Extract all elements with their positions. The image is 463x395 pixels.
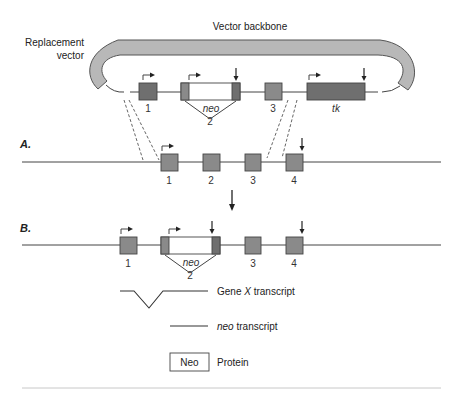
vector-right-join [382,86,400,92]
gene-targeting-diagram: Vector backbone Replacement vector 1 neo… [0,0,463,395]
promoter-arrow-icon [143,75,151,80]
neo-protein-box-label: Neo [180,357,199,368]
protein-label: Protein [217,357,249,368]
panel-b-neo-cassette [161,237,220,254]
vector-exon-3 [265,83,282,100]
promoter-arrow-icon [169,229,177,234]
vector-exon-label-3: 3 [270,103,276,114]
vector-backbone-arc [90,40,415,90]
vector-exon-2-left [181,83,189,100]
panel-a-exon-4 [286,154,303,171]
gene-x-transcript-label: Gene X transcript [217,286,295,297]
promoter-arrow-icon [309,75,317,80]
replacement-vector-label-line2: vector [57,50,85,61]
panel-a-exon-1 [161,154,178,171]
homology-line [282,100,297,158]
panel-b-exon-label-3: 3 [250,258,256,269]
panel-a-exon-label-3: 3 [250,175,256,186]
panel-a-exon-label-2: 2 [208,175,214,186]
vector-backbone-label: Vector backbone [213,21,288,32]
panel-b-exon-1 [120,237,137,254]
panel-b-exon-label-1: 1 [125,258,131,269]
panel-b-exon-4 [286,237,303,254]
panel-b-label: B. [20,222,31,234]
panel-a-label: A. [19,138,31,150]
panel-b-exon-2-right [212,237,220,254]
panel-a-exon-label-4: 4 [291,175,297,186]
vector-exon-label-2: 2 [207,116,213,127]
replacement-vector-label-line1: Replacement [25,37,84,48]
panel-a-exon-3 [245,154,261,171]
vector-exon-1 [139,83,157,100]
panel-b-exon-label-2: 2 [187,270,193,281]
vector-tk-label: tk [332,103,341,114]
panel-b-exon-label-4: 4 [291,258,297,269]
panel-b-neo-label: neo [183,257,200,268]
promoter-arrow-icon [162,146,170,151]
panel-a-exon-label-1: 1 [166,175,172,186]
vector-exon-2-right [232,83,240,100]
promoter-arrow-icon [189,75,197,80]
neo-transcript-label: neo transcript [217,321,278,332]
vector-left-join [106,85,124,92]
panel-b-exon-2-left [161,237,169,254]
vector-neo-label: neo [203,103,220,114]
vector-neo-cassette [181,83,240,100]
vector-tk-gene [307,83,365,100]
gene-x-transcript-line [120,291,208,308]
panel-b-exon-3 [245,237,261,254]
vector-exon-label-1: 1 [145,103,151,114]
panel-a-exon-2 [203,154,220,171]
promoter-arrow-icon [121,229,129,234]
